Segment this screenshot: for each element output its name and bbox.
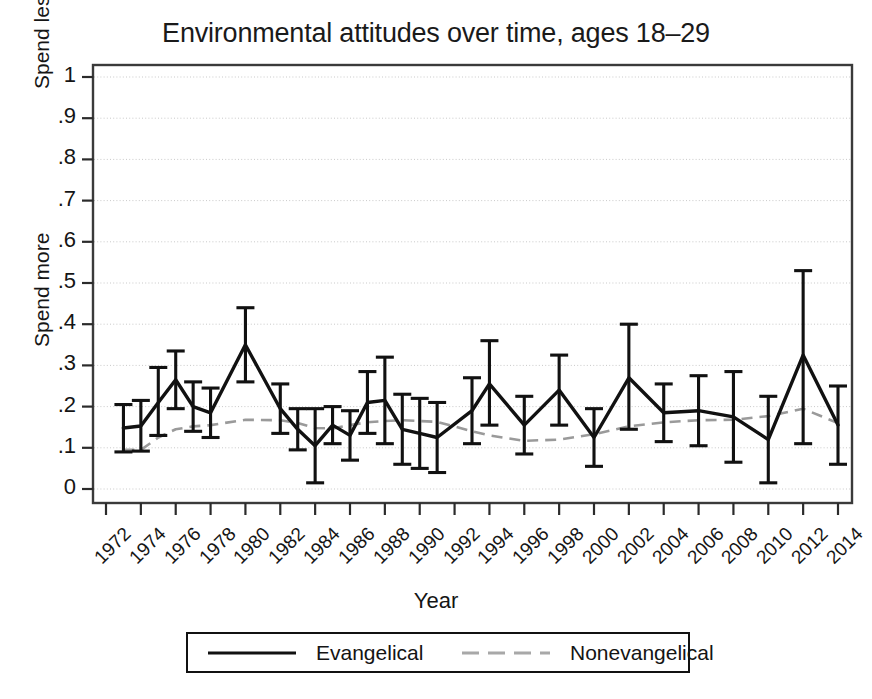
axis-ticks [82, 77, 838, 515]
legend-label-nonevangelical: Nonevangelical [570, 641, 714, 665]
x-axis-title: Year [0, 588, 872, 614]
error-bars-evangelical [114, 271, 847, 483]
chart-figure: Environmental attitudes over time, ages … [0, 0, 872, 699]
legend-entry-nonevangelical: Nonevangelical [460, 634, 714, 671]
chart-legend: Evangelical Nonevangelical [186, 632, 690, 673]
legend-entry-evangelical: Evangelical [206, 634, 423, 671]
solid-line-key [206, 643, 298, 663]
dashed-line-key [460, 643, 552, 663]
legend-label-evangelical: Evangelical [316, 641, 423, 665]
series-evangelical [123, 345, 838, 446]
